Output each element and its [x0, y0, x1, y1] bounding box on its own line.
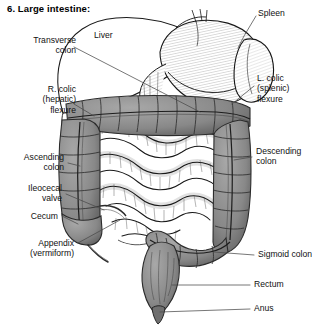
label-appendix: Appendix (vermiform) — [0, 238, 74, 259]
figure-title: 6. Large intestine: — [7, 3, 90, 14]
label-l-colic-flexure: L. colic (splenic) flexure — [257, 73, 289, 104]
descending-colon-segment — [213, 120, 251, 253]
label-anus: Anus — [254, 303, 274, 313]
leader-anus — [160, 309, 250, 312]
label-ascending-colon: Ascending colon — [0, 152, 64, 173]
label-sigmoid-colon: Sigmoid colon — [258, 249, 312, 259]
large-intestine-figure: 6. Large intestine: Transverse colon Liv… — [0, 0, 312, 329]
label-transverse-colon: Transverse colon — [0, 35, 76, 56]
art-layer-organs — [58, 9, 274, 324]
label-r-colic-flexure: R. colic (hepatic) flexure — [0, 84, 76, 115]
label-liver: Liver — [94, 30, 113, 40]
label-spleen: Spleen — [258, 8, 285, 18]
label-descending-colon: Descending colon — [256, 146, 301, 167]
label-cecum: Cecum — [0, 211, 58, 221]
label-rectum: Rectum — [254, 279, 284, 289]
label-ileocecal-valve: Ileocecal valve — [0, 183, 62, 204]
